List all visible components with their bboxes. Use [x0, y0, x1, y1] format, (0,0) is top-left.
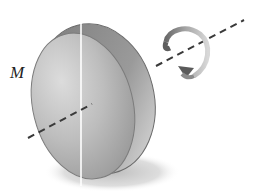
moment-label: M — [10, 64, 24, 81]
diagram-svg — [0, 0, 264, 193]
rotation-arrow-icon — [165, 29, 207, 78]
disk-diagram: M — [0, 0, 264, 193]
axis-right — [156, 20, 244, 66]
